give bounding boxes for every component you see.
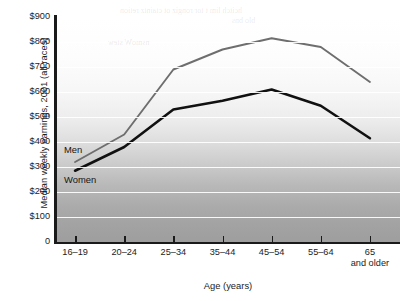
gridline — [56, 117, 400, 118]
gridline — [56, 142, 400, 143]
x-axis-spine — [54, 242, 400, 244]
plot-area — [56, 17, 400, 242]
series-label-women: Women — [64, 174, 96, 185]
scan-bleedthrough-artifact: hcitch lim t tor rongiz ot ctaintz retio… — [120, 6, 242, 15]
y-axis-tick-label: $800 — [6, 37, 50, 46]
y-axis-tick-label: $200 — [6, 187, 50, 196]
x-axis-tick-mark — [370, 236, 372, 244]
gridline — [56, 217, 400, 218]
x-axis-tick-label-line: and older — [330, 258, 410, 269]
x-axis-tick-mark — [321, 236, 323, 244]
x-axis-tick-label: 65and older — [330, 247, 410, 269]
y-axis-spine — [54, 15, 57, 244]
series-lines — [56, 17, 400, 242]
series-line-women — [75, 90, 370, 171]
gridline — [56, 42, 400, 43]
y-axis-tick-label: $500 — [6, 112, 50, 121]
x-axis-tick-mark — [173, 236, 175, 244]
y-axis-tick-label: 0 — [6, 237, 50, 246]
y-axis-tick-label: $600 — [6, 87, 50, 96]
y-axis-tick-label: $700 — [6, 62, 50, 71]
y-axis-tick-label: $100 — [6, 212, 50, 221]
x-axis-tick-mark — [75, 236, 77, 244]
x-axis-tick-mark — [272, 236, 274, 244]
y-axis-tick-label: $400 — [6, 137, 50, 146]
x-axis-tick-mark — [124, 236, 126, 244]
x-axis-tick-mark — [223, 236, 225, 244]
gridline — [56, 67, 400, 68]
gridline — [56, 192, 400, 193]
gridline — [56, 167, 400, 168]
gridline — [56, 17, 400, 18]
x-axis-tick-label-line: 65 — [365, 247, 375, 257]
series-label-men: Men — [64, 144, 82, 155]
x-axis-title: Age (years) — [56, 280, 400, 291]
gridline — [56, 92, 400, 93]
y-axis-tick-label: $900 — [6, 12, 50, 21]
y-axis-tick-label: $300 — [6, 162, 50, 171]
chart-figure: Median weekly earnings, 2001 (all races)… — [0, 0, 413, 301]
